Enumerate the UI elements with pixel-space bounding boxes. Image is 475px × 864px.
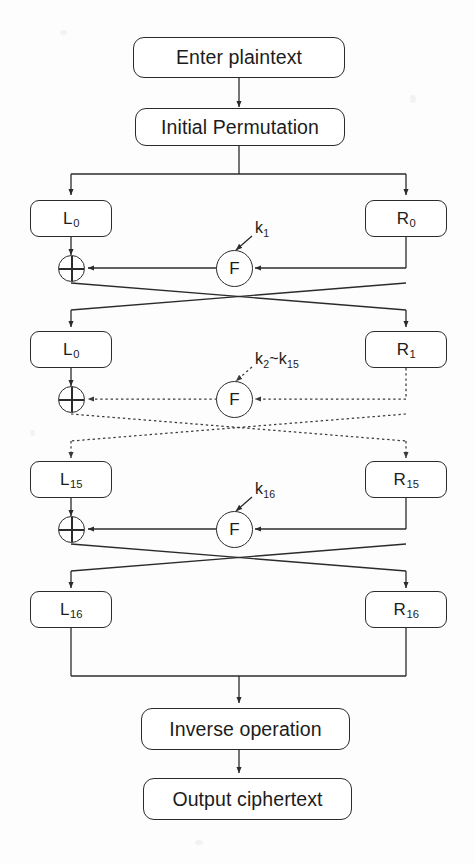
xor-operator-round2	[58, 386, 85, 413]
key-label-round2: k2~k15	[255, 350, 299, 368]
node-final-left[interactable]: L16	[30, 591, 112, 628]
node-round3-left[interactable]: L15	[30, 461, 112, 498]
node-round2-left-label: L	[63, 340, 73, 360]
f-function-label: F	[229, 390, 239, 410]
node-round1-left-label: L	[63, 209, 73, 229]
xor-vertical-stroke	[71, 387, 73, 412]
node-enter-plaintext-label: Enter plaintext	[176, 46, 302, 69]
node-initial-permutation[interactable]: Initial Permutation	[135, 108, 345, 146]
f-function-round1[interactable]: F	[216, 250, 253, 287]
node-round3-right-label: R	[394, 470, 406, 490]
node-enter-plaintext[interactable]: Enter plaintext	[133, 37, 345, 78]
xor-operator-round1	[58, 255, 85, 282]
node-round2-left[interactable]: L0	[30, 331, 112, 368]
xor-vertical-stroke	[71, 517, 73, 542]
node-round2-right-sub: 1	[410, 348, 416, 360]
des-feistel-diagram: Enter plaintext Initial Permutation L0 R…	[0, 0, 475, 864]
node-final-right-label: R	[394, 600, 406, 620]
xor-vertical-stroke	[71, 256, 73, 281]
f-function-label: F	[229, 259, 239, 279]
node-round3-left-label: L	[60, 470, 70, 490]
node-round3-right[interactable]: R15	[365, 461, 447, 498]
node-round3-left-sub: 15	[70, 478, 82, 490]
node-round2-left-sub: 0	[73, 348, 79, 360]
key-label-round1: k1	[255, 219, 269, 237]
key-label-round2-base: k	[255, 350, 263, 367]
node-output-ciphertext-label: Output ciphertext	[172, 788, 322, 811]
node-final-right[interactable]: R16	[365, 591, 447, 628]
key-label-round3-base: k	[255, 480, 263, 497]
node-final-left-sub: 16	[70, 608, 82, 620]
key-label-round2-sub2: 15	[287, 358, 299, 370]
node-round1-right-sub: 0	[410, 217, 416, 229]
node-initial-permutation-label: Initial Permutation	[161, 116, 319, 139]
node-final-left-label: L	[60, 600, 70, 620]
node-final-right-sub: 16	[406, 608, 418, 620]
node-round3-right-sub: 15	[406, 478, 418, 490]
f-function-round3[interactable]: F	[216, 511, 253, 548]
node-round2-right[interactable]: R1	[365, 331, 447, 368]
node-round1-left-sub: 0	[73, 217, 79, 229]
key-label-round3: k16	[255, 480, 275, 498]
node-round2-right-label: R	[397, 340, 409, 360]
node-round1-right-label: R	[397, 209, 409, 229]
node-round1-left[interactable]: L0	[30, 200, 112, 237]
key-label-round2-sub: 2	[263, 358, 269, 370]
f-function-label: F	[229, 520, 239, 540]
key-label-round1-sub: 1	[263, 227, 269, 239]
node-inverse-operation[interactable]: Inverse operation	[141, 708, 350, 750]
xor-operator-round3	[58, 516, 85, 543]
key-label-round2-base2: ~k	[269, 350, 287, 367]
node-output-ciphertext[interactable]: Output ciphertext	[143, 778, 352, 820]
key-label-round3-sub: 16	[263, 488, 275, 500]
node-round1-right[interactable]: R0	[365, 200, 447, 237]
key-label-round1-base: k	[255, 219, 263, 236]
f-function-round2[interactable]: F	[216, 381, 253, 418]
node-inverse-operation-label: Inverse operation	[169, 718, 321, 741]
